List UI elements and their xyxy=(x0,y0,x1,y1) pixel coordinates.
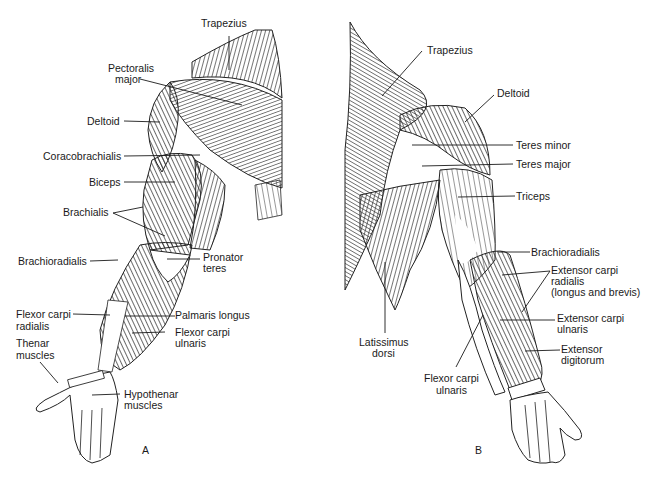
label-b-latissimus-dorsi-line2: dorsi xyxy=(372,348,395,359)
label-b-teres-major: Teres major xyxy=(516,159,571,170)
label-b-deltoid: Deltoid xyxy=(497,88,530,99)
label-a-thenar-muscles-line2: muscles xyxy=(16,350,55,361)
label-b-triceps: Triceps xyxy=(516,191,550,202)
arm-posterior-view xyxy=(345,22,582,463)
label-a-biceps: Biceps xyxy=(89,177,121,188)
label-b-extensor-digitorum-line2: digitorum xyxy=(561,355,604,366)
label-b-extensor-carpi-radialis-line3: (longus and brevis) xyxy=(551,287,640,298)
label-a-pectoralis-major-line2: major xyxy=(115,74,141,85)
label-a-flexor-carpi-radialis-line1: Flexor carpi xyxy=(16,309,71,320)
label-a-hypothenar-muscles-line2: muscles xyxy=(124,400,163,411)
label-b-flexor-carpi-ulnaris-line1: Flexor carpi xyxy=(424,373,479,384)
label-b-teres-minor: Teres minor xyxy=(516,140,571,151)
panel-label-a: A xyxy=(142,444,149,456)
label-a-trapezius: Trapezius xyxy=(201,18,247,29)
label-a-flexor-carpi-radialis-line2: radialis xyxy=(16,321,49,332)
label-a-deltoid: Deltoid xyxy=(87,116,120,127)
label-a-thenar-muscles-line1: Thenar xyxy=(16,338,49,349)
label-b-flexor-carpi-ulnaris-line2: ulnaris xyxy=(436,385,467,396)
label-a-coracobrachialis: Coracobrachialis xyxy=(43,151,121,162)
label-a-brachialis: Brachialis xyxy=(63,207,109,218)
anatomy-illustration xyxy=(0,0,660,481)
label-a-palmaris-longus: Palmaris longus xyxy=(175,310,250,321)
panel-label-b: B xyxy=(475,444,482,456)
label-a-pronator-teres-line2: teres xyxy=(203,263,226,274)
label-a-brachioradialis: Brachioradialis xyxy=(18,256,87,267)
label-b-trapezius: Trapezius xyxy=(427,45,473,56)
label-b-extensor-carpi-ulnaris-line2: ulnaris xyxy=(557,324,588,335)
label-a-flexor-carpi-ulnaris-line2: ulnaris xyxy=(175,338,206,349)
label-b-brachioradialis: Brachioradialis xyxy=(531,247,600,258)
